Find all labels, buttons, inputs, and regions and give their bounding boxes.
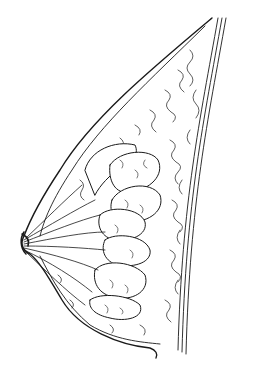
- ducts: [24, 185, 105, 305]
- chest-wall-lines: [178, 18, 226, 354]
- anatomical-drawing: [0, 0, 268, 366]
- illustration-canvas: [0, 0, 268, 366]
- lobules: [85, 144, 161, 320]
